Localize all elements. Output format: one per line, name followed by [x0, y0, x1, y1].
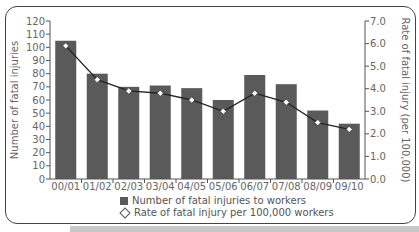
legend-item-line: Rate of fatal injury per 100,000 workers — [120, 207, 334, 219]
bar — [118, 87, 139, 179]
chart-legend: Number of fatal injuries to workers Rate… — [120, 195, 334, 219]
bar — [150, 86, 171, 179]
rate-line — [66, 46, 350, 130]
bar — [87, 74, 108, 179]
y-tick-label: 20 — [32, 147, 45, 158]
x-tick-label: 01/02 — [83, 181, 112, 192]
y-tick-label: 90 — [32, 55, 45, 66]
bar — [276, 84, 297, 179]
x-tick-label: 03/04 — [146, 181, 175, 192]
legend-label-bars: Number of fatal injuries to workers — [132, 195, 306, 207]
y-tick-label: 0 — [39, 174, 45, 185]
y-axis-title: Number of fatal injuries — [9, 41, 20, 159]
x-tick-label: 08/09 — [303, 181, 332, 192]
y-tick-label: 100 — [26, 42, 45, 53]
y2-tick-label: 4.0 — [370, 83, 386, 94]
x-tick-label: 06/07 — [240, 181, 269, 192]
square-swatch-icon — [120, 197, 128, 205]
legend-label-line: Rate of fatal injury per 100,000 workers — [134, 207, 334, 219]
x-tick-label: 09/10 — [335, 181, 364, 192]
bar — [55, 41, 76, 179]
y-tick-label: 80 — [32, 68, 45, 79]
legend-item-bars: Number of fatal injuries to workers — [120, 195, 334, 207]
y-tick-label: 40 — [32, 121, 45, 132]
diamond-marker-icon — [119, 207, 130, 218]
y2-tick-label: 2.0 — [370, 128, 386, 139]
y2-tick-label: 5.0 — [370, 61, 386, 72]
y-tick-label: 50 — [32, 108, 45, 119]
y-tick-label: 30 — [32, 134, 45, 145]
y-tick-label: 60 — [32, 95, 45, 106]
x-tick-label: 07/08 — [272, 181, 301, 192]
y-tick-label: 120 — [26, 16, 45, 27]
y2-tick-label: 7.0 — [370, 16, 386, 27]
y-tick-label: 110 — [26, 29, 45, 40]
y2-tick-label: 1.0 — [370, 151, 386, 162]
x-tick-label: 04/05 — [177, 181, 206, 192]
y-tick-label: 10 — [32, 160, 45, 171]
y2-tick-label: 0.0 — [370, 174, 386, 185]
x-tick-label: 00/01 — [51, 181, 80, 192]
y-tick-label: 70 — [32, 81, 45, 92]
y2-axis-title: Rate of fatal injury (per 100,000) — [400, 18, 411, 183]
y2-tick-label: 3.0 — [370, 106, 386, 117]
y2-tick-label: 6.0 — [370, 38, 386, 49]
x-tick-label: 02/03 — [114, 181, 143, 192]
x-tick-label: 05/06 — [209, 181, 238, 192]
